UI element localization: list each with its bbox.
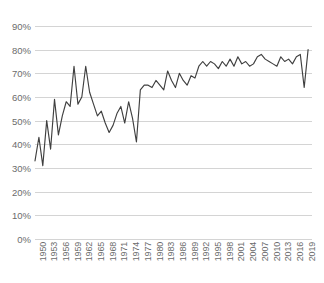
x-tick-label: 1962 — [85, 242, 94, 261]
y-tick-label: 30% — [0, 164, 31, 174]
y-tick-label: 80% — [0, 46, 31, 56]
x-tick-label: 2004 — [249, 242, 258, 261]
x-tick-label: 1992 — [202, 242, 211, 261]
x-tick-label: 1968 — [109, 242, 118, 261]
x-tick-label: 1986 — [179, 242, 188, 261]
plot-area — [35, 26, 312, 239]
line-chart: 90%80%70%60%50%40%30%20%10%0% 1950195319… — [0, 0, 324, 283]
y-tick-label: 0% — [0, 235, 31, 245]
gridline-0 — [35, 239, 312, 240]
x-tick-label: 2007 — [261, 242, 270, 261]
series-line-value — [35, 26, 312, 239]
x-tick-label: 1953 — [50, 242, 59, 261]
x-tick-label: 1965 — [97, 242, 106, 261]
y-tick-label: 90% — [0, 22, 31, 32]
x-tick-label: 2013 — [284, 242, 293, 261]
x-tick-label: 1950 — [39, 242, 48, 261]
y-tick-label: 20% — [0, 188, 31, 198]
x-tick-label: 1989 — [191, 242, 200, 261]
data-line — [35, 50, 308, 166]
x-tick-label: 2019 — [308, 242, 317, 261]
x-tick-label: 1971 — [120, 242, 129, 261]
y-tick-label: 10% — [0, 211, 31, 221]
x-tick-label: 1974 — [132, 242, 141, 261]
x-tick-label: 2016 — [296, 242, 305, 261]
x-tick-label: 2001 — [237, 242, 246, 261]
x-tick-label: 1956 — [62, 242, 71, 261]
x-tick-label: 1980 — [156, 242, 165, 261]
y-tick-label: 40% — [0, 140, 31, 150]
x-tick-label: 1998 — [226, 242, 235, 261]
y-tick-label: 60% — [0, 93, 31, 103]
y-tick-label: 50% — [0, 117, 31, 127]
x-tick-label: 1977 — [144, 242, 153, 261]
x-tick-label: 2010 — [273, 242, 282, 261]
x-tick-label: 1983 — [167, 242, 176, 261]
x-tick-label: 1995 — [214, 242, 223, 261]
x-tick-label: 1959 — [74, 242, 83, 261]
y-tick-label: 70% — [0, 69, 31, 79]
